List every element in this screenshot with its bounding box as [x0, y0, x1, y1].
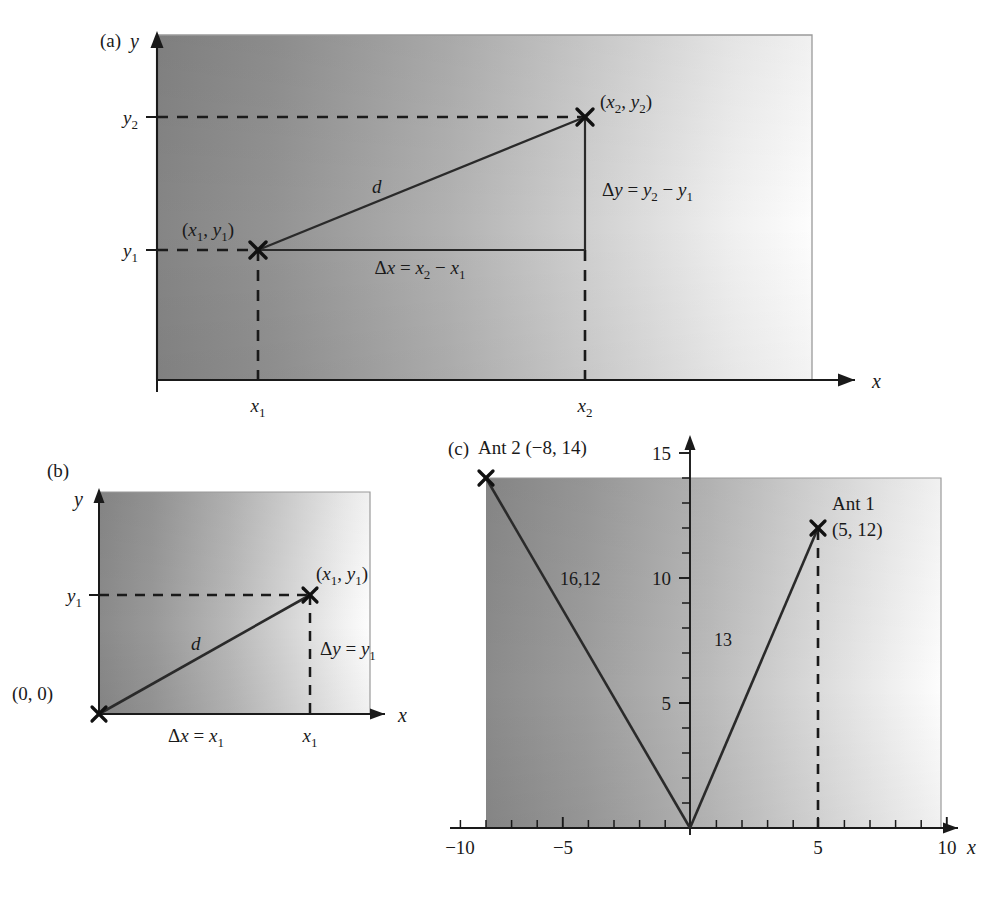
panel-c-ytick-label-10: 10: [652, 568, 671, 589]
panel-a-svg: y2 y1 x1 x2 x y (x2, y2) (x1, y1): [0, 0, 900, 410]
panel-c-ytick-label-15: 15: [652, 443, 671, 464]
panel-b-delta-x-label: Δx = x1: [168, 725, 224, 750]
panel-c-xtick-label--10: −10: [445, 837, 475, 858]
panel-b-xtick-label-x1: x1: [302, 725, 318, 750]
panel-b-hypotenuse-label: d: [191, 633, 201, 654]
panel-b-label: (b): [47, 460, 69, 482]
panel-a-hypotenuse-label: d: [372, 176, 382, 197]
panel-a: y2 y1 x1 x2 x y (x2, y2) (x1, y1): [0, 0, 900, 410]
figure-root: y2 y1 x1 x2 x y (x2, y2) (x1, y1): [0, 0, 987, 900]
panel-c-ytick-label-5: 5: [662, 693, 672, 714]
panel-a-x-axis-label: x: [871, 370, 881, 392]
panel-c: −10 −5 5 10 5 10 15 x Ant 2 (−8, 14) Ant…: [440, 430, 987, 900]
panel-b-y-axis-label: y: [72, 488, 83, 511]
panel-c-xtick-label-10: 10: [938, 837, 957, 858]
panel-a-ytick-label-y1: y1: [121, 240, 138, 265]
panel-c-xtick-label-5: 5: [813, 837, 823, 858]
panel-c-ant1-label-line2: (5, 12): [832, 519, 883, 541]
panel-c-label: (c): [448, 438, 469, 460]
panel-b: y x y1 x1 (0, 0) (x1, y1) d Δy = y1 Δx =…: [0, 410, 440, 790]
panel-a-label: (a): [100, 30, 121, 52]
panel-c-segment2-length-label: 16,12: [560, 569, 601, 589]
panel-c-svg: −10 −5 5 10 5 10 15 x Ant 2 (−8, 14) Ant…: [440, 430, 987, 900]
panel-b-origin-label: (0, 0): [12, 683, 53, 705]
panel-c-x-axis-arrow: [943, 823, 958, 834]
panel-c-y-axis-arrow: [685, 435, 696, 450]
panel-a-ytick-label-y2: y2: [121, 107, 138, 132]
panel-b-plot-shade: [99, 492, 370, 714]
panel-c-x-axis-label: x: [966, 836, 976, 858]
panel-b-ytick-label-y1: y1: [65, 585, 82, 610]
panel-c-ant1-label-line1: Ant 1: [832, 493, 875, 514]
panel-c-xtick-label--5: −5: [553, 837, 573, 858]
panel-a-x-axis-arrow: [838, 374, 855, 387]
panel-b-x-axis-arrow: [370, 709, 385, 720]
panel-a-plot-shade: [157, 35, 812, 380]
panel-a-xtick-label-x2: x2: [577, 395, 593, 420]
panel-a-y-axis-label: y: [128, 30, 139, 53]
panel-b-x-axis-label: x: [397, 704, 407, 726]
panel-c-ant2-label: Ant 2 (−8, 14): [478, 437, 587, 459]
panel-c-segment1-length-label: 13: [714, 630, 732, 650]
